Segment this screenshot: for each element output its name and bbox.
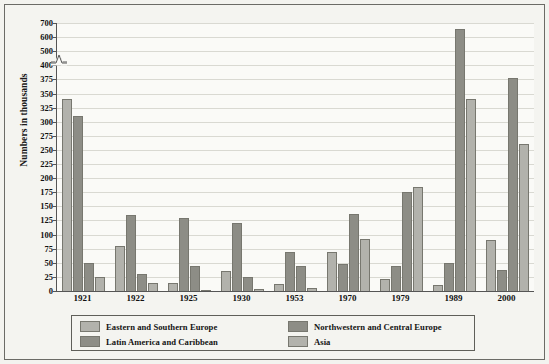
bar-group xyxy=(428,23,481,291)
bar-groups xyxy=(57,23,534,291)
x-tick-label: 1970 xyxy=(321,293,374,307)
axis-area xyxy=(56,23,534,292)
bar-group xyxy=(163,23,216,291)
legend-swatch-icon xyxy=(288,321,308,332)
bar[interactable] xyxy=(444,263,454,291)
bar-group xyxy=(216,23,269,291)
bar[interactable] xyxy=(285,252,295,291)
bar-group xyxy=(322,23,375,291)
x-tick-label: 1921 xyxy=(56,293,109,307)
y-tick-label: 375 xyxy=(40,75,53,83)
bar[interactable] xyxy=(84,263,94,291)
bar[interactable] xyxy=(433,285,443,291)
legend-label: Latin America and Caribbean xyxy=(106,337,218,347)
legend-item-asia[interactable]: Asia xyxy=(288,336,330,347)
bar[interactable] xyxy=(349,214,359,291)
bar[interactable] xyxy=(232,223,242,291)
bar[interactable] xyxy=(137,274,147,291)
x-axis-tick-labels: 192119221925193019531970197919892000 xyxy=(56,293,533,307)
legend-item-northwestern-and-central-europe[interactable]: Northwestern and Central Europe xyxy=(288,321,442,332)
y-tick-label: 300 xyxy=(40,118,53,126)
bar[interactable] xyxy=(466,99,476,291)
bar[interactable] xyxy=(327,252,337,291)
y-tick-label: 175 xyxy=(40,188,53,196)
y-tick-label: 200 xyxy=(40,174,53,182)
y-tick-label: 150 xyxy=(40,202,53,210)
bar[interactable] xyxy=(508,78,518,291)
y-tick-label: 225 xyxy=(40,160,53,168)
bar[interactable] xyxy=(73,116,83,291)
y-tick-label: 50 xyxy=(45,259,54,267)
y-tick-label: 700 xyxy=(40,19,53,27)
bar[interactable] xyxy=(148,283,158,291)
bar[interactable] xyxy=(307,288,317,291)
y-tick-mark xyxy=(53,291,57,292)
bar[interactable] xyxy=(95,277,105,291)
bar[interactable] xyxy=(338,264,348,291)
bar[interactable] xyxy=(497,270,507,291)
bar[interactable] xyxy=(201,290,211,291)
y-tick-label: 25 xyxy=(45,273,54,281)
bar[interactable] xyxy=(380,279,390,291)
legend-row: Latin America and Caribbean Asia xyxy=(80,334,466,349)
bar[interactable] xyxy=(391,266,401,291)
bar[interactable] xyxy=(296,266,306,291)
legend-item-eastern-and-southern-europe[interactable]: Eastern and Southern Europe xyxy=(80,321,288,332)
bar[interactable] xyxy=(126,215,136,291)
bar[interactable] xyxy=(360,239,370,291)
legend-label: Eastern and Southern Europe xyxy=(106,322,217,332)
y-tick-label: 250 xyxy=(40,146,53,154)
x-tick-label: 1979 xyxy=(374,293,427,307)
bar-group xyxy=(110,23,163,291)
bar[interactable] xyxy=(168,283,178,291)
x-tick-label: 1925 xyxy=(162,293,215,307)
bar[interactable] xyxy=(62,99,72,291)
legend-item-latin-america-and-caribbean[interactable]: Latin America and Caribbean xyxy=(80,336,288,347)
legend-swatch-icon xyxy=(80,321,100,332)
bar[interactable] xyxy=(413,187,423,291)
y-tick-label: 325 xyxy=(40,104,53,112)
bar[interactable] xyxy=(243,277,253,291)
y-tick-label: 600 xyxy=(40,33,53,41)
bar[interactable] xyxy=(179,218,189,291)
x-tick-label: 1953 xyxy=(268,293,321,307)
x-tick-label: 1930 xyxy=(215,293,268,307)
chart-frame: Numbers in thousands 7006005004003753503… xyxy=(4,4,545,360)
legend-swatch-icon xyxy=(80,336,100,347)
y-axis-tick-labels: 7006005004003753503253002752502252001751… xyxy=(27,23,53,291)
bar-group xyxy=(269,23,322,291)
legend-label: Asia xyxy=(314,337,330,347)
bar[interactable] xyxy=(455,29,465,291)
bar[interactable] xyxy=(115,246,125,291)
bar[interactable] xyxy=(274,284,284,291)
bar-group xyxy=(481,23,534,291)
y-tick-label: 350 xyxy=(40,90,53,98)
bar[interactable] xyxy=(519,144,529,291)
legend-swatch-icon xyxy=(288,336,308,347)
bar[interactable] xyxy=(221,271,231,291)
plot-area: Numbers in thousands 7006005004003753503… xyxy=(5,5,546,305)
x-tick-label: 2000 xyxy=(480,293,533,307)
x-tick-label: 1922 xyxy=(109,293,162,307)
bar-group xyxy=(57,23,110,291)
x-tick-label: 1989 xyxy=(427,293,480,307)
chart-legend: Eastern and Southern Europe Northwestern… xyxy=(71,315,475,351)
bar[interactable] xyxy=(190,266,200,291)
y-tick-label: 75 xyxy=(45,245,54,253)
y-tick-label: 100 xyxy=(40,231,53,239)
legend-label: Northwestern and Central Europe xyxy=(314,322,442,332)
y-tick-label: 125 xyxy=(40,216,53,224)
bar[interactable] xyxy=(254,289,264,291)
bar-group xyxy=(375,23,428,291)
y-tick-label: 275 xyxy=(40,132,53,140)
legend-row: Eastern and Southern Europe Northwestern… xyxy=(80,319,466,334)
bar[interactable] xyxy=(402,192,412,291)
bar[interactable] xyxy=(486,240,496,291)
